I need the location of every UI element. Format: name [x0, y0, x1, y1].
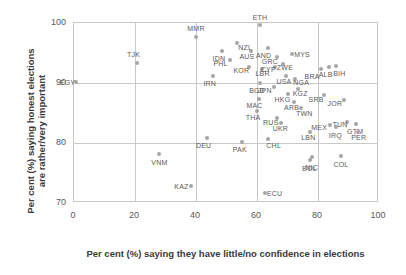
data-point-label: CYP	[261, 65, 276, 72]
data-point-label: CHL	[266, 142, 281, 149]
data-point-label: PAK	[233, 146, 247, 153]
data-point-label: HKG	[275, 96, 291, 103]
data-point-label: COL	[333, 160, 348, 167]
gridline-vertical	[135, 23, 136, 201]
y-axis-label: Per cent (%) saying honest elections are…	[25, 41, 47, 221]
data-point	[240, 140, 244, 144]
data-point	[266, 137, 270, 141]
data-point-label: SRB	[309, 96, 324, 103]
data-point-label: KOR	[233, 67, 249, 74]
data-point-label: ALB	[319, 70, 333, 77]
y-tick-label: 70	[40, 197, 66, 207]
data-point-label: PHL	[213, 59, 227, 66]
data-point-label: BRA	[305, 72, 320, 79]
data-point	[257, 97, 261, 101]
data-point-label: MEX	[311, 124, 327, 131]
data-point-label: THA	[246, 113, 261, 120]
data-point	[220, 49, 224, 53]
data-point	[255, 109, 259, 113]
data-point	[135, 61, 139, 65]
y-axis-label-container: Per cent (%) saying honest elections are…	[8, 20, 34, 205]
x-axis-label: Per cent (%) saying they have little/no …	[73, 248, 378, 259]
gridline-vertical	[196, 23, 197, 201]
data-point-label: USA	[276, 77, 291, 84]
data-point-label: NGA	[293, 79, 309, 86]
data-point-label: GRC	[262, 57, 278, 64]
y-tick-label: 80	[40, 137, 66, 147]
data-point	[157, 152, 161, 156]
data-point-label: IRN	[203, 79, 216, 86]
x-tick-label: 20	[121, 210, 147, 220]
data-point	[194, 35, 198, 39]
data-point	[342, 98, 346, 102]
data-point	[228, 58, 232, 62]
gridline-vertical	[318, 23, 319, 201]
scatter-chart: Per cent (%) saying honest elections are…	[0, 0, 406, 275]
x-tick-label: 40	[182, 210, 208, 220]
data-point	[205, 136, 209, 140]
data-point	[354, 122, 358, 126]
data-point-label: NIC	[306, 164, 319, 171]
data-point	[189, 184, 193, 188]
data-point	[328, 123, 332, 127]
x-tick-label: 100	[365, 210, 391, 220]
data-point-label: IRQ	[329, 131, 342, 138]
data-point-label: JPN	[258, 86, 272, 93]
data-point	[339, 154, 343, 158]
x-tick-label: 80	[304, 210, 330, 220]
data-point	[334, 64, 338, 68]
data-point-label: ETH	[253, 14, 268, 21]
data-point	[310, 155, 314, 159]
data-point-label: TWN	[296, 110, 313, 117]
y-tick-label: 100	[40, 17, 66, 27]
data-point-label: LBN	[301, 134, 315, 141]
data-point	[258, 23, 262, 27]
data-point-label: EGY	[60, 78, 75, 85]
data-point-label: DEU	[196, 142, 211, 149]
data-point-label: ECU	[267, 189, 282, 196]
x-tick-label: 0	[60, 210, 86, 220]
data-point-label: ZWE	[277, 63, 293, 70]
plot-area: EGYTJKMMRETHNZLIDNAUSPHLKORLBRIRNANDGRCM…	[73, 22, 378, 202]
data-point-label: KGZ	[293, 90, 308, 97]
data-point-label: KAZ	[174, 182, 188, 189]
data-point-label: PER	[351, 134, 366, 141]
data-point-label: MYS	[294, 50, 310, 57]
gridline-horizontal	[74, 83, 377, 84]
data-point-label: AUS	[239, 53, 254, 60]
data-point-label: MMR	[187, 25, 204, 32]
x-tick-label: 60	[243, 210, 269, 220]
data-point-label: JOR	[328, 100, 343, 107]
data-point	[211, 74, 215, 78]
data-point	[266, 46, 270, 50]
data-point	[272, 85, 276, 89]
data-point	[327, 65, 331, 69]
gridline-horizontal	[74, 143, 377, 144]
data-point-label: MAC	[246, 101, 262, 108]
data-point	[334, 125, 338, 129]
data-point-label: UKR	[273, 125, 288, 132]
data-point-label: VNM	[151, 159, 167, 166]
data-point-label: BIH	[333, 70, 345, 77]
data-point-label: TJK	[127, 51, 140, 58]
data-point	[258, 81, 262, 85]
